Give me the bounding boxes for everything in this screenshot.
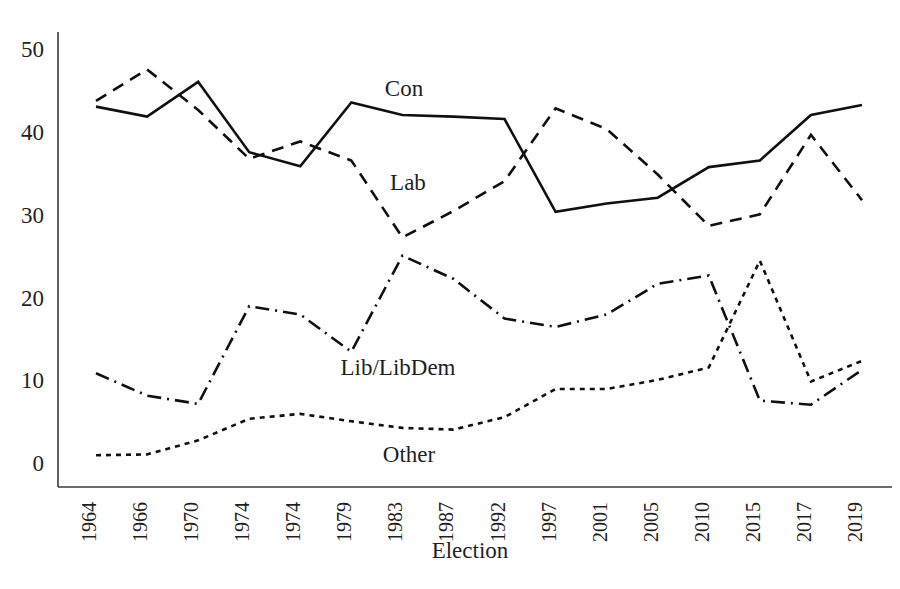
x-tick-label-14: 2017 (793, 502, 815, 542)
series-label-lib-libdem: Lib/LibDem (341, 355, 456, 380)
series-line-other (96, 261, 862, 456)
series-line-lab (96, 69, 862, 237)
x-tick-label-7: 1987 (435, 502, 457, 542)
series-line-con (96, 82, 862, 212)
y-tick-label-30: 30 (21, 203, 44, 228)
x-tick-label-4: 1974 (282, 502, 304, 542)
chart-canvas: 01020304050 1964196619701974197419791983… (0, 0, 900, 589)
x-axis-title: Election (432, 538, 509, 563)
y-tick-label-50: 50 (21, 37, 44, 62)
x-tick-label-9: 1997 (538, 502, 560, 542)
series-lines (96, 69, 862, 455)
y-axis: 01020304050 (21, 32, 58, 487)
y-tick-label-20: 20 (21, 286, 44, 311)
x-tick-label-11: 2005 (640, 502, 662, 542)
x-tick-label-5: 1979 (333, 502, 355, 542)
series-label-con: Con (385, 76, 424, 101)
x-tick-label-0: 1964 (78, 502, 100, 542)
x-tick-label-2: 1970 (180, 502, 202, 542)
x-tick-label-13: 2015 (742, 502, 764, 542)
x-tick-label-12: 2010 (691, 502, 713, 542)
x-tick-label-3: 1974 (231, 502, 253, 542)
x-axis: 1964196619701974197419791983198719921997… (58, 487, 892, 542)
x-tick-label-10: 2001 (589, 502, 611, 542)
x-tick-label-6: 1983 (384, 502, 406, 542)
series-label-other: Other (383, 442, 436, 467)
y-tick-label-40: 40 (21, 120, 44, 145)
series-label-lab: Lab (390, 170, 426, 195)
series-line-lib-libdem (96, 256, 862, 405)
x-tick-label-15: 2019 (844, 502, 866, 542)
y-tick-label-10: 10 (21, 368, 44, 393)
y-tick-label-0: 0 (33, 451, 45, 476)
line-chart: 01020304050 1964196619701974197419791983… (0, 0, 900, 589)
x-tick-label-8: 1992 (487, 502, 509, 542)
x-tick-label-1: 1966 (129, 502, 151, 542)
